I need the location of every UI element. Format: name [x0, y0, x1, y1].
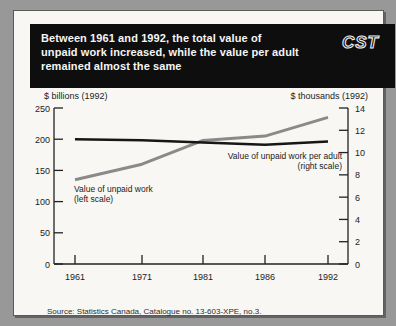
left-tick-label: 0 — [45, 260, 50, 270]
series-label-per-adult: Value of unpaid work per adult (right sc… — [228, 151, 342, 171]
x-tick-label: 1992 — [318, 272, 338, 282]
left-tick-label: 150 — [35, 166, 50, 176]
right-tick-label: 6 — [355, 193, 360, 203]
right-tick-label: 14 — [355, 104, 365, 114]
right-tick-label: 4 — [355, 215, 360, 225]
left-tick-label: 200 — [35, 135, 50, 145]
series-label-unpaid-work: Value of unpaid work (left scale) — [74, 184, 153, 204]
series-label-per-adult-line-1: Value of unpaid work per adult — [228, 151, 342, 161]
right-tick-label: 2 — [355, 237, 360, 247]
right-tick-label: 8 — [355, 170, 360, 180]
series-label-unpaid-work-line-2: (left scale) — [74, 194, 153, 204]
right-tick-label: 0 — [355, 260, 360, 270]
left-tick-label: 250 — [35, 104, 50, 114]
series-label-unpaid-work-line-1: Value of unpaid work — [74, 184, 153, 194]
right-tick-label: 12 — [355, 126, 365, 136]
x-tick-label: 1986 — [255, 272, 275, 282]
x-tick-label: 1961 — [65, 272, 85, 282]
right-axis-title: $ thousands (1992) — [290, 91, 368, 101]
left-axis-title: $ billions (1992) — [44, 91, 108, 101]
x-tick-label: 1981 — [193, 272, 213, 282]
screen: Between 1961 and 1992, the total value o… — [0, 0, 396, 326]
x-tick-label: 1971 — [132, 272, 152, 282]
right-tick-label: 10 — [355, 148, 365, 158]
series-label-per-adult-line-2: (right scale) — [228, 161, 342, 171]
left-tick-label: 100 — [35, 197, 50, 207]
left-tick-label: 50 — [40, 228, 50, 238]
